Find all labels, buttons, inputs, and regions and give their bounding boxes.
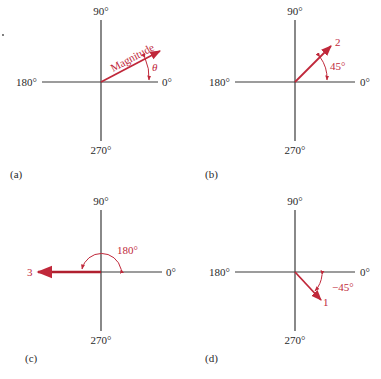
label-180: 180° (209, 76, 230, 88)
angle-arc (320, 57, 327, 80)
panel-c: 90° 0° 270° 3 180° (c) (25, 195, 176, 365)
vector-label: 3 (27, 266, 33, 278)
polar-vector-diagram: 90° 180° 0° 270° Magnitude θ (a) 90° 180… (0, 0, 381, 379)
panel-b: 90° 180° 0° 270° 2 45° (b) (205, 5, 370, 181)
vector-label: 2 (335, 36, 341, 48)
label-90: 90° (93, 195, 108, 207)
angle-label: 45° (330, 60, 345, 72)
angle-label: −45° (332, 281, 354, 293)
angle-arc (145, 58, 149, 80)
label-270: 270° (285, 334, 306, 346)
label-270: 270° (91, 334, 112, 346)
stray-dot (2, 34, 4, 36)
caption: (c) (25, 352, 38, 365)
label-180: 180° (16, 76, 37, 88)
caption: (a) (10, 168, 23, 181)
label-180: 180° (209, 266, 230, 278)
label-0: 0° (360, 266, 370, 278)
label-0: 0° (162, 76, 172, 88)
angle-arc (315, 275, 322, 291)
vector-1 (295, 272, 321, 300)
label-270: 270° (91, 144, 112, 156)
caption: (b) (205, 168, 218, 181)
angle-label: θ (152, 61, 158, 73)
vector-label: 1 (323, 296, 329, 308)
caption: (d) (205, 352, 218, 365)
label-90: 90° (287, 195, 302, 207)
label-0: 0° (166, 266, 176, 278)
angle-label: 180° (117, 244, 138, 256)
panel-a: 90° 180° 0° 270° Magnitude θ (a) (10, 5, 172, 181)
label-0: 0° (360, 76, 370, 88)
label-90: 90° (93, 5, 108, 17)
panel-d: 90° 180° 0° 270° 1 −45° (d) (205, 195, 370, 365)
label-90: 90° (287, 5, 302, 17)
vector-2 (295, 46, 331, 82)
label-270: 270° (285, 144, 306, 156)
